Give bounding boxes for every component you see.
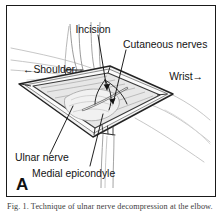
panel-letter-a: A [16,176,28,193]
label-cutaneous-nerves: Cutaneous nerves [123,39,207,50]
retractor-bottom-handle [101,134,114,188]
label-incision: Incision [75,24,110,35]
label-medial-epicondyle: Medial epicondyle [32,168,115,179]
surgical-illustration: Incision Cutaneous nerves ←Shoulder Wris… [7,6,214,195]
label-wrist-direction: Wrist→ [169,71,203,82]
figure-container: Incision Cutaneous nerves ←Shoulder Wris… [0,0,223,212]
label-shoulder-direction: ←Shoulder [23,64,76,75]
figure-caption: Fig. 1. Technique of ulnar nerve decompr… [7,202,219,211]
label-ulnar-nerve: Ulnar nerve [15,152,69,163]
figure-panel-border: Incision Cutaneous nerves ←Shoulder Wris… [6,5,216,197]
